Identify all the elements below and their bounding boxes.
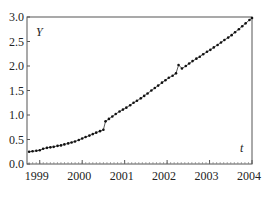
data-point	[251, 17, 254, 20]
data-point	[161, 81, 164, 84]
data-point	[206, 50, 209, 53]
data-point	[153, 87, 156, 90]
data-point	[35, 149, 38, 152]
data-point	[38, 149, 41, 152]
data-point	[129, 104, 132, 107]
data-point	[177, 64, 180, 67]
data-point	[70, 141, 73, 144]
data-point	[139, 97, 142, 100]
data-point	[60, 144, 63, 147]
data-point	[220, 41, 223, 44]
data-point	[198, 55, 201, 58]
data-point	[234, 31, 237, 34]
x-tick-label: 2000	[67, 169, 91, 183]
data-point	[132, 101, 135, 104]
data-point	[248, 19, 251, 22]
x-axis-label: t	[240, 141, 244, 155]
data-point	[202, 53, 205, 56]
data-point	[28, 150, 31, 153]
y-tick-label: 2.0	[9, 59, 24, 73]
data-point	[49, 146, 52, 149]
data-point	[63, 143, 66, 146]
data-point	[136, 99, 139, 102]
data-point	[95, 131, 98, 134]
line-chart: 0.00.51.01.52.02.53.0 199920002001200220…	[0, 0, 267, 197]
data-point	[227, 36, 230, 39]
data-point	[99, 130, 102, 133]
x-tick-label: 2003	[195, 169, 219, 183]
y-tick-label: 0.0	[9, 157, 24, 171]
data-point	[92, 133, 95, 136]
data-point	[184, 65, 187, 68]
data-point	[52, 146, 55, 149]
data-point	[241, 25, 244, 28]
data-point	[181, 67, 184, 70]
data-line	[29, 18, 252, 152]
data-point	[171, 75, 174, 78]
data-point	[74, 140, 77, 143]
data-point	[111, 115, 114, 118]
data-point	[108, 118, 111, 121]
data-point	[81, 137, 84, 140]
data-point	[114, 113, 117, 116]
data-point	[67, 142, 70, 145]
data-point	[238, 28, 241, 31]
x-tick-label: 1999	[25, 169, 49, 183]
data-point	[157, 84, 160, 87]
data-point	[118, 110, 121, 113]
data-point	[122, 108, 125, 111]
data-point	[31, 150, 34, 153]
y-tick-label: 0.5	[9, 133, 24, 147]
data-point	[146, 92, 149, 95]
x-axis: 199920002001200220032004	[25, 160, 261, 183]
x-tick-label: 2004	[237, 169, 261, 183]
data-point	[125, 106, 128, 109]
data-point	[164, 79, 167, 82]
y-axis-label: Y	[36, 25, 44, 39]
data-point	[42, 148, 45, 151]
data-point	[77, 139, 80, 142]
y-tick-label: 3.0	[9, 10, 24, 24]
data-point	[143, 95, 146, 98]
data-markers	[28, 17, 253, 153]
data-point	[104, 120, 107, 123]
data-point	[188, 62, 191, 65]
data-point	[56, 145, 59, 148]
y-tick-label: 1.0	[9, 108, 24, 122]
x-tick-label: 2001	[110, 169, 134, 183]
data-point	[150, 89, 153, 92]
data-point	[230, 34, 233, 37]
data-point	[216, 44, 219, 47]
y-tick-label: 1.5	[9, 84, 24, 98]
data-point	[212, 46, 215, 49]
data-point	[167, 76, 170, 79]
plot-frame	[27, 17, 252, 164]
data-point	[223, 39, 226, 42]
data-point	[209, 49, 212, 52]
data-point	[46, 147, 49, 150]
y-tick-label: 2.5	[9, 35, 24, 49]
data-point	[84, 136, 87, 139]
data-point	[88, 134, 91, 137]
data-point	[191, 60, 194, 63]
data-point	[102, 128, 105, 131]
data-point	[175, 72, 178, 75]
x-tick-label: 2002	[152, 169, 176, 183]
data-point	[244, 22, 247, 25]
data-point	[195, 57, 198, 60]
